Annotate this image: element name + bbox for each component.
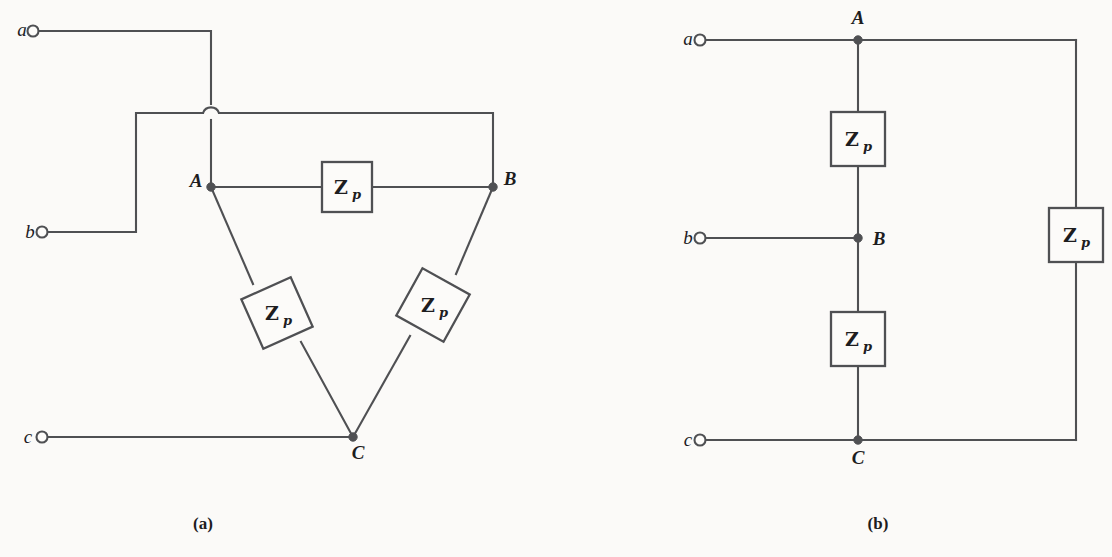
terminal-label-a: a — [17, 19, 27, 40]
impedance-symbol-z: Z — [845, 328, 859, 350]
terminal-ring-icon — [37, 432, 48, 443]
node-dot-b-panel-b — [854, 234, 862, 242]
impedance-subscript-p: p — [1081, 235, 1090, 250]
node-dot-b-panel-a — [489, 183, 497, 191]
impedance-subscript-p: p — [283, 313, 292, 328]
node-dot-a-panel-a — [207, 183, 215, 191]
terminal-label-b: b — [25, 221, 35, 242]
impedance-subscript-p: p — [352, 187, 361, 202]
impedance-zp-ab-panel-a[interactable]: Z p — [322, 162, 372, 212]
terminal-ring-icon — [695, 233, 706, 244]
node-dot-c-panel-a — [349, 433, 357, 441]
caption-panel-a: (a) — [193, 514, 213, 533]
terminal-ring-icon — [37, 227, 48, 238]
impedance-zp-ab-panel-b[interactable]: Z p — [831, 112, 885, 166]
terminal-label-a: a — [683, 28, 693, 49]
node-label-b-panel-b: B — [872, 228, 886, 249]
impedance-subscript-p: p — [863, 139, 872, 154]
terminal-label-c: c — [24, 426, 33, 447]
terminal-label-c: c — [684, 429, 693, 450]
node-label-a-panel-b: A — [851, 7, 865, 28]
node-label-c-panel-a: C — [352, 442, 365, 463]
terminal-ring-icon — [695, 35, 706, 46]
impedance-symbol-z: Z — [265, 302, 279, 324]
impedance-symbol-z: Z — [1063, 224, 1077, 246]
node-dot-c-panel-b — [854, 436, 862, 444]
impedance-symbol-z: Z — [334, 176, 348, 198]
terminal-label-b: b — [683, 227, 693, 248]
caption-panel-b: (b) — [868, 514, 889, 533]
impedance-symbol-z: Z — [845, 128, 859, 150]
terminal-ring-icon — [695, 435, 706, 446]
node-label-b-panel-a: B — [503, 168, 517, 189]
impedance-subscript-p: p — [863, 339, 872, 354]
node-dot-a-panel-b — [854, 36, 862, 44]
circuit-figure: Z p Z p Z p A B C a — [0, 0, 1112, 557]
impedance-zp-ca-panel-b[interactable]: Z p — [1049, 208, 1103, 262]
terminal-ring-icon — [28, 26, 39, 37]
figure-background — [0, 0, 1112, 557]
impedance-zp-bc-panel-b[interactable]: Z p — [831, 312, 885, 366]
impedance-subscript-p: p — [439, 305, 448, 320]
node-label-a-panel-a: A — [189, 170, 203, 191]
node-label-c-panel-b: C — [852, 447, 865, 468]
impedance-symbol-z: Z — [421, 294, 435, 316]
